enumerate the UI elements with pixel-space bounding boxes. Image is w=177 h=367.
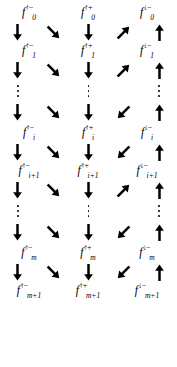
arrow-down-right-icon <box>35 60 70 80</box>
ellipsis-gap <box>106 200 141 222</box>
arrow-row-2 <box>0 102 177 122</box>
arrow-down-icon <box>0 22 35 42</box>
arrow-row-3 <box>0 142 177 162</box>
vertical-ellipsis-dots <box>158 85 160 96</box>
arrow-down-right-icon <box>35 222 70 242</box>
ellipsis-gap <box>35 80 70 102</box>
label-superscript: ↓− <box>140 161 148 170</box>
label-subscript: i+1 <box>88 171 99 180</box>
arrow-row-5 <box>0 222 177 242</box>
ellipsis-block-b <box>0 200 177 222</box>
label-superscript: ↑+ <box>83 243 91 252</box>
vertical-ellipsis-icon <box>0 80 35 102</box>
label-subscript: 0 <box>150 13 154 22</box>
arrow-down-icon <box>71 60 106 80</box>
label-superscript: ↑+ <box>84 41 92 50</box>
arrow-up-right-icon <box>106 60 141 80</box>
label-f-up-minus-m-plus-1: f↑−m+1 <box>0 283 59 298</box>
vertical-ellipsis-icon <box>142 200 177 222</box>
ellipsis-gap <box>35 200 70 222</box>
label-superscript: ↑+ <box>79 281 87 290</box>
label-superscript: ↑− <box>22 161 30 170</box>
arrow-down-icon <box>71 222 106 242</box>
label-f-up-plus-m: f↑+m <box>59 245 118 260</box>
label-superscript: ↓− <box>144 123 152 132</box>
arrow-down-right-icon <box>35 142 70 162</box>
label-superscript: ↓− <box>143 3 151 12</box>
label-superscript: ↓− <box>143 41 151 50</box>
arrow-up-icon <box>142 262 177 282</box>
arrow-up-icon <box>142 60 177 80</box>
label-subscript: 1 <box>150 51 154 60</box>
vertical-ellipsis-icon <box>71 80 106 102</box>
label-row-0: f↑−0 f↑+0 f↓−0 <box>0 4 177 22</box>
label-superscript: ↑− <box>25 3 33 12</box>
label-subscript: 0 <box>91 13 95 22</box>
label-f-up-plus-0: f↑+0 <box>59 5 118 20</box>
arrow-row-4 <box>0 180 177 200</box>
arrow-down-icon <box>0 222 35 242</box>
label-f-down-minus-i-plus-1: f↓−i+1 <box>118 163 177 178</box>
label-row-1: f↑−1 f↑+1 f↓−1 <box>0 42 177 60</box>
label-f-up-minus-i: f↑−i <box>0 125 59 140</box>
arrow-up-icon <box>142 222 177 242</box>
arrow-down-right-icon <box>35 180 70 200</box>
label-f-down-minus-0: f↓−0 <box>118 5 177 20</box>
arrow-down-left-icon <box>106 142 141 162</box>
label-subscript: m <box>31 253 36 262</box>
label-superscript: ↓− <box>142 243 150 252</box>
arrow-down-right-icon <box>35 262 70 282</box>
vertical-ellipsis-dots <box>158 205 160 216</box>
label-subscript: i <box>92 133 94 142</box>
arrow-down-right-icon <box>35 22 70 42</box>
label-subscript: 1 <box>91 51 95 60</box>
label-subscript: m+1 <box>86 291 100 300</box>
label-superscript: ↑− <box>25 41 33 50</box>
label-f-down-minus-1: f↓−1 <box>118 43 177 58</box>
vertical-ellipsis-dots <box>88 205 90 216</box>
label-f-up-minus-i-plus-1: f↑−i+1 <box>0 163 59 178</box>
vertical-ellipsis-icon <box>0 200 35 222</box>
arrow-down-icon <box>0 180 35 200</box>
label-subscript: 1 <box>32 51 36 60</box>
label-f-down-minus-m: f↓−m <box>118 245 177 260</box>
vertical-ellipsis-dots <box>88 85 90 96</box>
label-subscript: m+1 <box>145 291 159 300</box>
vertical-ellipsis-icon <box>142 80 177 102</box>
label-f-up-minus-0: f↑−0 <box>0 5 59 20</box>
label-subscript: i <box>151 133 153 142</box>
arrow-up-icon <box>142 142 177 162</box>
label-row-i-plus-1: f↑−i+1 f↑+i+1 f↓−i+1 <box>0 162 177 180</box>
label-subscript: m <box>149 253 154 262</box>
label-subscript: i <box>33 133 35 142</box>
arrow-down-icon <box>0 142 35 162</box>
label-subscript: 0 <box>32 13 36 22</box>
arrow-down-left-icon <box>106 102 141 122</box>
label-f-up-plus-i: f↑+i <box>59 125 118 140</box>
label-f-up-minus-1: f↑−1 <box>0 43 59 58</box>
arrow-row-1 <box>0 60 177 80</box>
label-f-up-plus-m-plus-1: f↑+m+1 <box>59 283 118 298</box>
arrow-down-icon <box>0 60 35 80</box>
arrow-down-icon <box>0 262 35 282</box>
arrow-up-icon <box>142 180 177 200</box>
label-superscript: ↑+ <box>85 123 93 132</box>
arrow-up-right-icon <box>106 22 141 42</box>
ellipsis-block-a <box>0 80 177 102</box>
arrow-down-icon <box>71 22 106 42</box>
arrow-down-icon <box>71 180 106 200</box>
label-superscript: ↓− <box>138 281 146 290</box>
vertical-ellipsis-dots <box>17 85 19 96</box>
label-f-down-minus-i: f↓−i <box>118 125 177 140</box>
label-superscript: ↑− <box>24 243 32 252</box>
label-row-m: f↑−m f↑+m f↓−m <box>0 244 177 262</box>
label-row-m-plus-1: f↑−m+1 f↑+m+1 f↓−m+1 <box>0 282 177 300</box>
arrow-row-0 <box>0 22 177 42</box>
label-superscript: ↑− <box>20 281 28 290</box>
arrow-down-icon <box>0 102 35 122</box>
lattice-diagram: f↑−0 f↑+0 f↓−0 f↑−1 f↑+1 f↓−1 f↑−i f↑ <box>0 0 177 367</box>
ellipsis-gap <box>106 80 141 102</box>
arrow-up-icon <box>142 102 177 122</box>
arrow-up-right-icon <box>106 180 141 200</box>
label-subscript: m+1 <box>27 291 41 300</box>
